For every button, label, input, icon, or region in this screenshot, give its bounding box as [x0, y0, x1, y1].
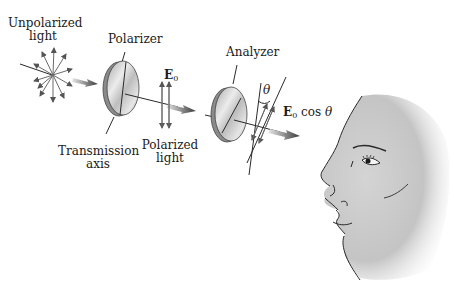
theta-symbol: θ: [263, 83, 270, 97]
analyzer-text: Analyzer: [226, 45, 279, 59]
unpolarized-light-star: [20, 48, 72, 102]
face-profile: [321, 94, 450, 280]
incoming-beam-arrow: [72, 78, 98, 87]
unpolarized-line2: light: [8, 30, 78, 43]
analyzer-disk: [205, 65, 247, 142]
e0-cos-theta-label: E0 cos θ: [283, 106, 332, 122]
polarized-line2: light: [140, 152, 200, 165]
e0-symbol: E: [164, 68, 173, 82]
transmission-line2: axis: [58, 158, 138, 171]
output-beam-arrow: [268, 129, 300, 140]
e0cos-symbol: E: [283, 105, 292, 119]
polarized-light-label: Polarized light: [140, 139, 200, 165]
polarized-beam-arrow: [166, 104, 196, 114]
theta-label: θ: [263, 84, 270, 97]
e0cos-theta: θ: [325, 105, 332, 119]
polarizer-text: Polarizer: [108, 32, 163, 46]
unpolarized-light-label: Unpolarized light: [8, 17, 78, 43]
e0-label: E0: [164, 69, 178, 85]
transmission-axis-label: Transmission axis: [58, 145, 138, 171]
polarizer-label: Polarizer: [108, 33, 163, 46]
analyzer-label: Analyzer: [226, 46, 279, 59]
cos-text: cos: [297, 105, 325, 119]
e0-subscript: 0: [173, 74, 178, 83]
polarizer-disk: [103, 52, 139, 134]
